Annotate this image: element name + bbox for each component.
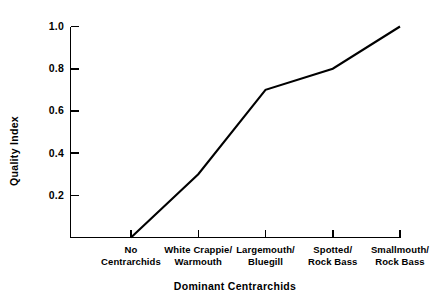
x-axis-title: Dominant Centrarchids (70, 280, 400, 292)
quality-index-line (131, 27, 400, 238)
x-axis-tick-label: Smallmouth/Rock Bass (350, 244, 440, 267)
x-axis-ticks (131, 230, 400, 238)
y-axis-tick-label: 0.4 (20, 148, 64, 159)
x-axis-tick-label-line: Rock Bass (350, 256, 440, 268)
x-axis-tick-label-line: Smallmouth/ (350, 244, 440, 256)
chart-figure: 1.00.80.60.40.2 NoCentrarchidsWhite Crap… (0, 0, 440, 300)
y-axis-tick-label: 0.2 (20, 190, 64, 201)
y-axis-title: Quality Index (8, 96, 20, 206)
y-axis-ticks (71, 27, 79, 196)
y-axis-tick-label: 0.6 (20, 105, 64, 116)
y-axis-tick-label: 0.8 (20, 63, 64, 74)
y-axis-tick-label: 1.0 (20, 21, 64, 32)
